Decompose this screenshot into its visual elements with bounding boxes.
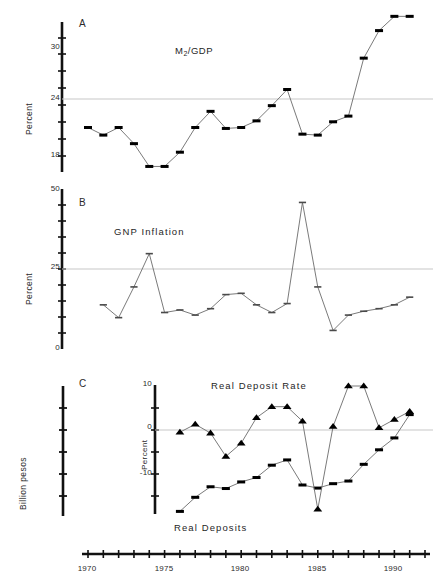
panel-b-data-series: [100, 202, 414, 332]
panel-a-data-series: [84, 15, 414, 168]
panel-a-yaxis: [58, 22, 66, 172]
shared-xaxis: [82, 550, 430, 558]
panel-c-inner-yaxis: [151, 385, 159, 514]
panel-c-outer-yaxis: [59, 386, 67, 516]
panel-c-real-deposit-rate-series: [176, 383, 415, 512]
plot-canvas: [0, 0, 433, 585]
figure-panel-chart: A B C Percent Percent Billion pesos Perc…: [0, 0, 433, 585]
